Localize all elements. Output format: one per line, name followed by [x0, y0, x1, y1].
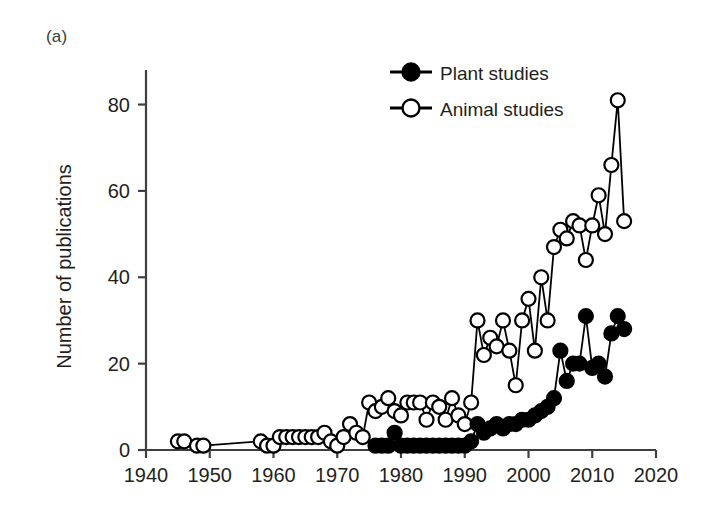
x-tick-label-2010: 2010 [570, 464, 615, 487]
data-point [196, 439, 210, 453]
x-tick-label-1980: 1980 [379, 464, 424, 487]
legend-markers [390, 64, 432, 117]
x-tick-label-1940: 1940 [124, 464, 169, 487]
data-point [547, 240, 561, 254]
data-point [394, 408, 408, 422]
x-tick-label-2000: 2000 [506, 464, 551, 487]
data-point [445, 391, 459, 405]
chart-plot-area [0, 0, 724, 507]
data-point [471, 313, 485, 327]
data-point [598, 227, 612, 241]
data-point [534, 270, 548, 284]
data-point [579, 309, 593, 323]
data-point [560, 374, 574, 388]
data-point [420, 413, 434, 427]
y-tick-label-80: 80 [80, 93, 130, 116]
data-point [553, 344, 567, 358]
data-point [592, 357, 606, 371]
data-point [579, 253, 593, 267]
data-point [547, 391, 561, 405]
data-point [541, 313, 555, 327]
data-point [611, 93, 625, 107]
data-point [617, 214, 631, 228]
data-point [464, 396, 478, 410]
data-point [598, 370, 612, 384]
data-point [432, 400, 446, 414]
data-point [388, 426, 402, 440]
y-tick-label-20: 20 [80, 352, 130, 375]
data-point [515, 313, 529, 327]
data-point [560, 231, 574, 245]
data-point [464, 434, 478, 448]
series-animal-studies [171, 93, 631, 452]
data-point [528, 344, 542, 358]
data-point [604, 158, 618, 172]
data-point [356, 430, 370, 444]
y-tick-label-40: 40 [80, 266, 130, 289]
legend-marker-animal-icon [403, 100, 420, 117]
data-point [381, 391, 395, 405]
data-point [477, 348, 491, 362]
data-point [496, 313, 510, 327]
x-tick-label-1950: 1950 [188, 464, 233, 487]
legend-label-animal: Animal studies [440, 99, 564, 121]
data-series-layer [171, 93, 631, 452]
x-tick-label-1970: 1970 [315, 464, 360, 487]
x-tick-label-1960: 1960 [251, 464, 296, 487]
data-point [585, 218, 599, 232]
x-tick-label-1990: 1990 [443, 464, 488, 487]
panel-label: (a) [46, 27, 67, 47]
data-point [509, 378, 523, 392]
data-point [502, 344, 516, 358]
legend-label-plant: Plant studies [440, 63, 549, 85]
legend-marker-plant-icon [403, 64, 420, 81]
y-tick-label-0: 0 [80, 439, 130, 462]
data-point [592, 188, 606, 202]
y-tick-label-60: 60 [80, 179, 130, 202]
y-axis-title: Number of publications [53, 107, 76, 427]
x-tick-label-2020: 2020 [634, 464, 679, 487]
data-point [617, 322, 631, 336]
figure-panel-a: (a) Number of publications Plant studies… [0, 0, 724, 507]
data-point [611, 309, 625, 323]
data-point [522, 292, 536, 306]
